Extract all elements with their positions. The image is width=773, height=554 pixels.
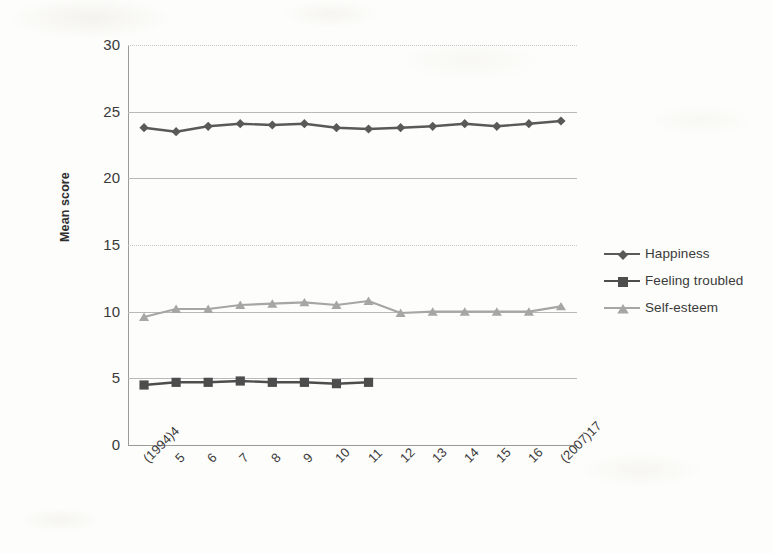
legend-key — [604, 247, 640, 261]
x-tick-label-3: 7 — [236, 450, 252, 466]
x-tick-label-2: 6 — [204, 450, 220, 466]
diamond-marker-icon — [616, 248, 630, 262]
x-tick-label-1: 5 — [172, 450, 188, 466]
chart-legend: HappinessFeeling troubledSelf-esteem — [604, 240, 769, 321]
x-tick-label-7: 11 — [365, 445, 385, 465]
square-marker-icon — [616, 275, 630, 289]
x-tick-label-5: 9 — [300, 450, 316, 466]
x-tick-label-11: 15 — [493, 445, 514, 466]
legend-label: Self-esteem — [645, 300, 718, 315]
x-tick-label-12: 16 — [525, 445, 546, 466]
x-tick-label-4: 8 — [268, 450, 284, 466]
x-tick-label-9: 13 — [429, 445, 450, 466]
legend-item-happiness[interactable]: Happiness — [604, 240, 769, 267]
x-tick-label-13: (2007)17 — [557, 418, 604, 465]
x-tick-label-10: 14 — [461, 445, 482, 466]
x-tick-label-8: 12 — [397, 445, 418, 466]
x-tick-label-6: 10 — [332, 445, 353, 466]
line-chart: Mean score 302520151050 (1994)4567891011… — [0, 0, 773, 554]
legend-key — [604, 301, 640, 315]
triangle-marker-icon — [616, 302, 630, 316]
legend-item-feeling-troubled[interactable]: Feeling troubled — [604, 267, 769, 294]
legend-label: Feeling troubled — [645, 273, 743, 288]
legend-label: Happiness — [645, 246, 710, 261]
legend-item-self-esteem[interactable]: Self-esteem — [604, 294, 769, 321]
legend-key — [604, 274, 640, 288]
